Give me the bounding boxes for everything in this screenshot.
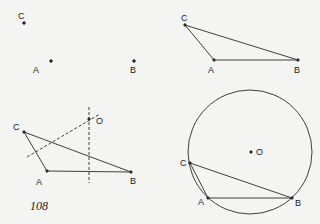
triangle-abc	[190, 163, 292, 198]
label-b: B	[294, 65, 300, 75]
label-c: C	[13, 122, 20, 132]
panel-triangle	[184, 24, 299, 61]
geometry-page: C A B C A B C A B O C A B O 108	[0, 0, 320, 224]
point-b	[133, 60, 136, 63]
label-c: C	[18, 11, 25, 21]
page-number: 108	[30, 199, 48, 213]
geometry-figure: C A B C A B C A B O C A B O 108	[0, 0, 320, 224]
point-o	[88, 118, 90, 120]
label-a: A	[198, 197, 204, 207]
label-o: O	[96, 116, 103, 126]
label-c: C	[181, 13, 188, 23]
label-c: C	[180, 158, 187, 168]
panel-circumcircle	[188, 90, 312, 214]
panel-points-only	[23, 22, 136, 63]
triangle-abc	[185, 25, 298, 60]
point-o	[250, 151, 252, 153]
point-a	[50, 60, 53, 63]
panel-perpendicular-bisectors	[23, 107, 132, 183]
label-a: A	[33, 65, 39, 75]
label-o: O	[256, 147, 263, 157]
triangle-abc	[24, 132, 131, 172]
label-b: B	[130, 176, 136, 186]
point-c	[23, 22, 26, 25]
label-a: A	[36, 177, 42, 187]
label-a: A	[208, 65, 214, 75]
label-b: B	[130, 65, 136, 75]
label-b: B	[295, 198, 301, 208]
